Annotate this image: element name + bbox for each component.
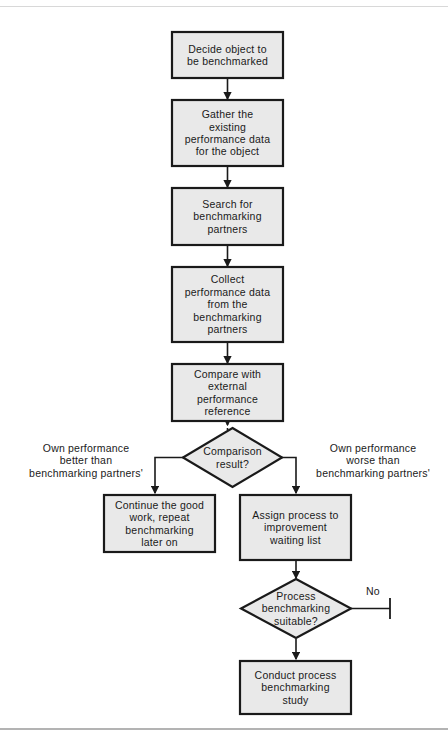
process-node-n7 <box>240 495 351 560</box>
connector-d1-n7 <box>282 458 296 494</box>
branch-label-left: Own performance better than benchmarking… <box>20 442 152 479</box>
connector-d1-n6 <box>155 458 183 494</box>
process-node-n2 <box>172 100 283 166</box>
decision-node-d1 <box>183 428 282 487</box>
process-node-n3 <box>172 188 283 245</box>
branch-label-right: Own performance worse than benchmarking … <box>305 442 441 479</box>
process-node-n6 <box>104 495 215 552</box>
process-node-n4 <box>172 267 283 342</box>
process-node-n8 <box>240 661 351 714</box>
flowchart-canvas: Decide object to be benchmarked Gather t… <box>0 0 448 747</box>
process-node-n5 <box>172 364 283 421</box>
edge-label-no: No <box>366 585 380 597</box>
decision-node-d2 <box>241 579 351 638</box>
flowchart-graphics <box>0 0 448 747</box>
process-node-n1 <box>172 32 283 78</box>
